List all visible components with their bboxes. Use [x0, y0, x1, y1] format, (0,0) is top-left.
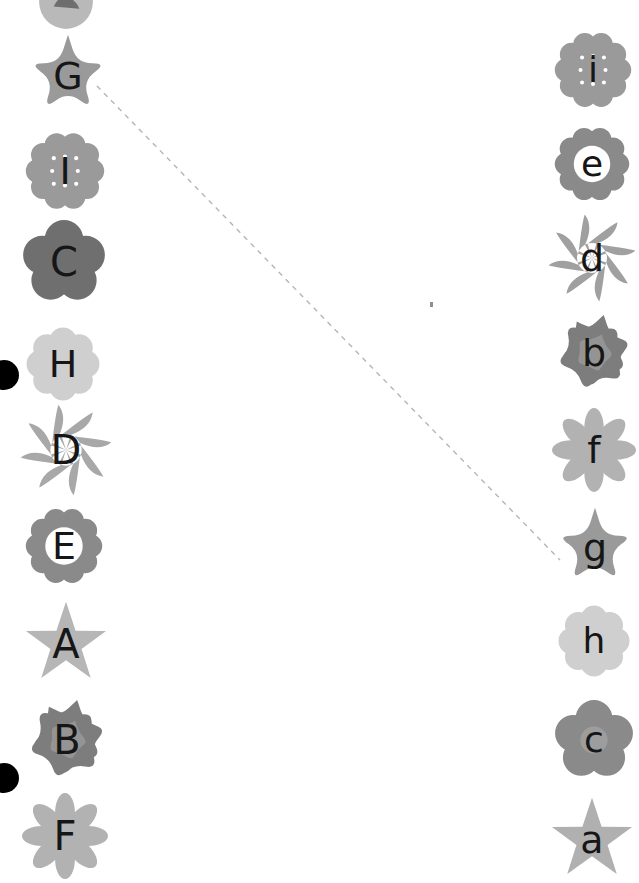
flower-shape-pinwheel8: [20, 404, 112, 496]
flower-tile-H[interactable]: H: [25, 326, 101, 402]
flower-tile-i[interactable]: i: [554, 31, 632, 109]
flower-shape-daisy10-dots: [25, 131, 105, 211]
flower-shape-daisy10-hole: [554, 126, 630, 202]
flower-shape-star5-rounded: [25, 33, 111, 119]
center-speck: [430, 302, 433, 307]
flower-tile-A[interactable]: A: [23, 601, 109, 687]
flower-tile-G[interactable]: G: [25, 33, 111, 119]
flower-shape-rose-layered: [554, 313, 634, 393]
flower-shape-circle-photo: [38, 0, 94, 30]
flower-tile-F[interactable]: F: [22, 793, 108, 879]
flower-tile-h[interactable]: h: [557, 604, 631, 678]
connector-segment-G-to-g: [97, 86, 560, 560]
flower-shape-daisy8-oval: [22, 793, 108, 879]
selection-dot-lower[interactable]: [0, 763, 19, 793]
flower-shape-pinwheel8: [548, 214, 636, 302]
flower-tile-E[interactable]: E: [25, 507, 103, 585]
flower-tile-C[interactable]: C: [22, 220, 106, 304]
flower-shape-daisy10-hole: [25, 507, 103, 585]
flower-tile-a[interactable]: a: [549, 797, 635, 883]
flower-tile-b[interactable]: b: [554, 313, 634, 393]
flower-shape-daisy8-oval: [552, 408, 636, 492]
flower-shape-petal5-round: [22, 220, 106, 304]
flower-tile-B[interactable]: B: [25, 698, 109, 782]
flower-shape-rose-layered: [25, 698, 109, 782]
flower-shape-star5-sharp: [549, 797, 635, 883]
flower-tile-c[interactable]: c: [554, 700, 634, 780]
flower-shape-petal8-blob: [25, 326, 101, 402]
flower-tile-D[interactable]: D: [20, 404, 112, 496]
flower-shape-petal8-blob: [557, 604, 631, 678]
flower-shape-petal5-round: [554, 700, 634, 780]
left-thumbnail-tile[interactable]: [38, 0, 94, 30]
flower-tile-e[interactable]: e: [554, 126, 630, 202]
selection-dot-upper[interactable]: [0, 360, 19, 390]
flower-tile-f[interactable]: f: [552, 408, 636, 492]
flower-shape-daisy10-dots: [554, 31, 632, 109]
flower-tile-I[interactable]: I: [25, 131, 105, 211]
flower-tile-d[interactable]: d: [548, 214, 636, 302]
flower-tile-g[interactable]: g: [553, 506, 637, 590]
flower-shape-star5-sharp: [23, 601, 109, 687]
flower-shape-star5-rounded: [553, 506, 637, 590]
